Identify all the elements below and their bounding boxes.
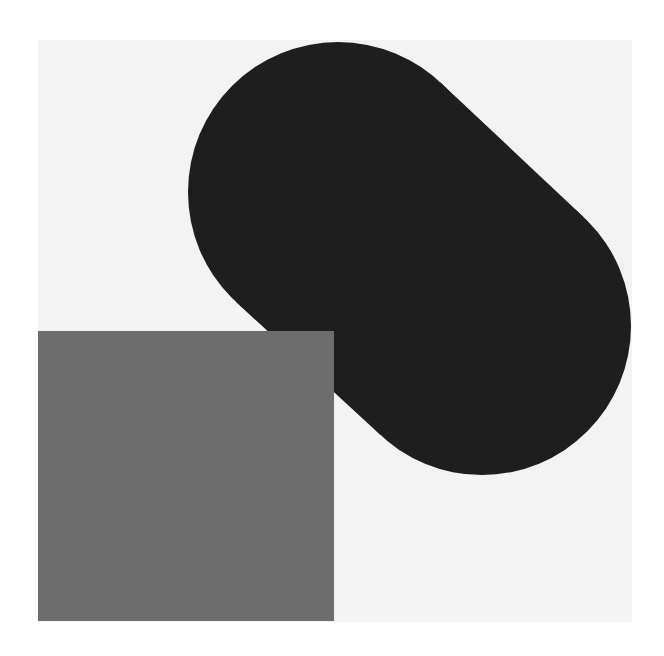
abstract-composition [0,0,664,656]
artwork-canvas [0,0,664,656]
gray-square [38,331,334,621]
